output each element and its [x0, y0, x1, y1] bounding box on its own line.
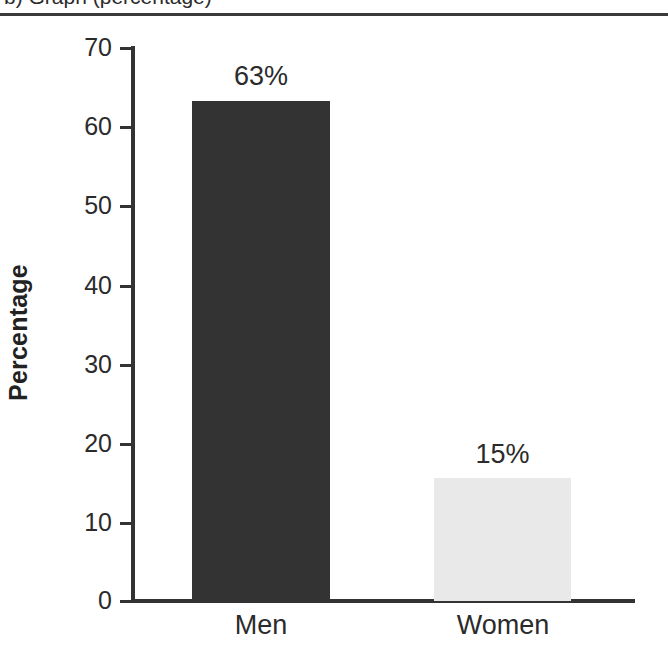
- bar-women[interactable]: [434, 478, 571, 601]
- y-tick-label-0: 0: [50, 588, 112, 613]
- y-axis-line: [131, 46, 135, 603]
- y-tick-label-70: 70: [50, 35, 112, 60]
- y-tick-label-20: 20: [50, 431, 112, 456]
- bar-men[interactable]: [192, 101, 330, 601]
- category-label-men: Men: [192, 610, 330, 640]
- y-tick-mark-40: [120, 285, 132, 288]
- bar-chart: Percentage 70 60 50 40 30 20 10 0 63% 15…: [0, 0, 668, 659]
- y-tick-label-60: 60: [50, 114, 112, 139]
- y-tick-mark-30: [120, 364, 132, 367]
- y-tick-label-50: 50: [50, 193, 112, 218]
- bar-value-men: 63%: [192, 62, 330, 90]
- y-tick-mark-0: [120, 600, 132, 603]
- y-axis-title: Percentage: [4, 233, 33, 433]
- y-tick-mark-10: [120, 522, 132, 525]
- bar-value-women: 15%: [434, 440, 571, 468]
- y-tick-mark-50: [120, 205, 132, 208]
- category-label-women: Women: [428, 610, 578, 640]
- y-tick-label-40: 40: [50, 273, 112, 298]
- y-tick-label-30: 30: [50, 352, 112, 377]
- y-tick-mark-20: [120, 443, 132, 446]
- y-tick-mark-70: [120, 47, 132, 50]
- y-tick-mark-60: [120, 126, 132, 129]
- y-tick-label-10: 10: [50, 510, 112, 535]
